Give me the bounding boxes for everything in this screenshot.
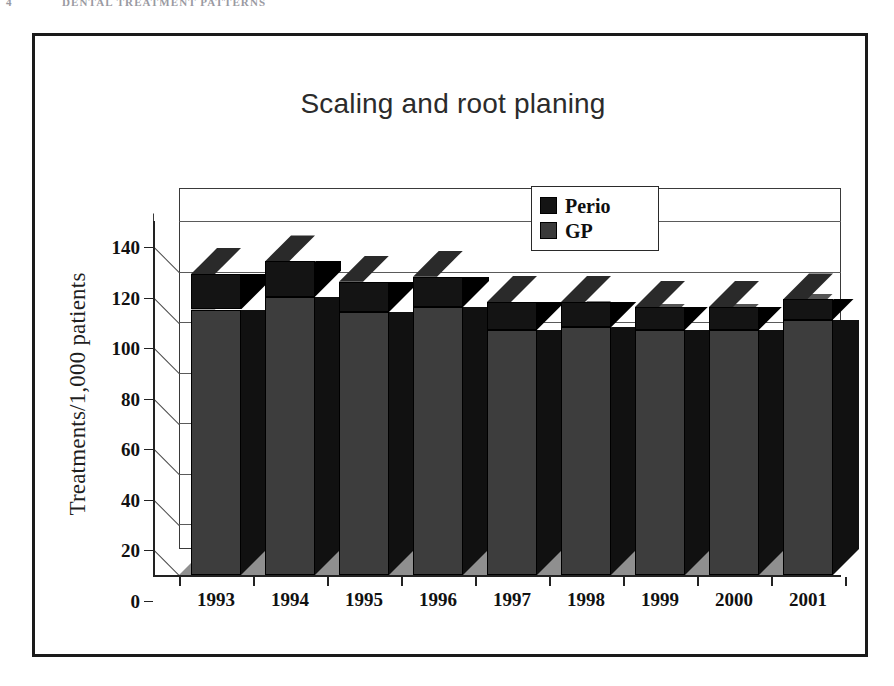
bar-group-2000[interactable] (709, 36, 785, 575)
y-tick-100 (144, 348, 153, 349)
y-tick-label-80: 80 (82, 390, 140, 409)
y-tick-label-140: 140 (82, 238, 140, 257)
bar-segment-gp-1997[interactable] (487, 330, 537, 575)
bar-side-face-gp-1997 (537, 330, 563, 575)
figure-frame: Scaling and root planing Treatments/1,00… (32, 33, 868, 657)
bar-group-1995[interactable] (339, 36, 415, 575)
bar-side-face-perio-2001 (833, 299, 859, 319)
bar-segment-gp-2000[interactable] (709, 330, 759, 575)
bar-group-1996[interactable] (413, 36, 489, 575)
bar-side-face-perio-2000 (759, 307, 785, 330)
bar-top-face-perio-1996 (413, 251, 463, 277)
bar-side-face-gp-1994 (315, 297, 341, 575)
legend-swatch-gp (540, 222, 557, 239)
bar-top-face-perio-1993 (191, 248, 241, 274)
bar-side-face-perio-1999 (685, 307, 711, 330)
bar-top-face-perio-1999 (635, 281, 685, 307)
bar-front-face-perio-1996 (413, 277, 463, 307)
bar-front-face-gp-2001 (783, 320, 833, 575)
x-tick-2000 (697, 577, 699, 586)
bar-side-face-perio-1996 (463, 277, 489, 307)
x-axis-label-2000: 2000 (697, 589, 771, 611)
legend-item-perio[interactable]: Perio (540, 193, 650, 218)
x-axis-label-1995: 1995 (327, 589, 401, 611)
bar-front-face-perio-1995 (339, 282, 389, 312)
y-tick-label-60: 60 (82, 440, 140, 459)
x-axis-label-1993: 1993 (179, 589, 253, 611)
bar-side-face-gp-1993 (241, 310, 267, 576)
bar-top-face-perio-1997 (487, 276, 537, 302)
bar-side-face-perio-1997 (537, 302, 563, 330)
legend-swatch-perio (540, 197, 557, 214)
bar-segment-perio-1999[interactable] (635, 307, 685, 330)
page-folio: 4 (6, 0, 12, 8)
x-axis-label-1999: 1999 (623, 589, 697, 611)
bar-side-face-gp-1995 (389, 312, 415, 575)
bar-front-face-perio-1999 (635, 307, 685, 330)
legend-label-perio: Perio (565, 196, 611, 216)
bar-segment-perio-1996[interactable] (413, 277, 463, 307)
bar-segment-perio-1997[interactable] (487, 302, 537, 330)
y-tick-80 (144, 399, 153, 400)
y-tick-label-120: 120 (82, 289, 140, 308)
bar-segment-gp-1994[interactable] (265, 297, 315, 575)
bar-group-1994[interactable] (265, 36, 341, 575)
bar-segment-gp-1996[interactable] (413, 307, 463, 575)
x-tick-2001 (771, 577, 773, 586)
bar-segment-gp-1993[interactable] (191, 310, 241, 576)
bar-top-face-perio-1998 (561, 276, 611, 302)
x-tick-1998 (549, 577, 551, 586)
bar-segment-perio-2001[interactable] (783, 299, 833, 319)
y-axis-line (153, 221, 155, 575)
bar-front-face-gp-1993 (191, 310, 241, 576)
y-tick-label-100: 100 (82, 339, 140, 358)
bar-front-face-gp-1999 (635, 330, 685, 575)
bar-segment-gp-1998[interactable] (561, 327, 611, 575)
bar-side-face-gp-1998 (611, 327, 637, 575)
x-tick-1999 (623, 577, 625, 586)
page-running-header: 4 DENTAL TREATMENT PATTERNS (0, 0, 894, 10)
bar-group-1993[interactable] (191, 36, 267, 575)
bar-segment-perio-1993[interactable] (191, 274, 241, 309)
y-tick-0 (144, 601, 153, 602)
bar-segment-gp-2001[interactable] (783, 320, 833, 575)
x-axis-line (153, 575, 841, 577)
bar-front-face-perio-1994 (265, 261, 315, 296)
bar-front-face-perio-2000 (709, 307, 759, 330)
y-tick-60 (144, 449, 153, 450)
x-axis-label-1994: 1994 (253, 589, 327, 611)
bar-side-face-perio-1993 (241, 274, 267, 309)
bar-segment-perio-1994[interactable] (265, 261, 315, 296)
y-tick-label-40: 40 (82, 491, 140, 510)
bar-segment-perio-2000[interactable] (709, 307, 759, 330)
bar-top-face-perio-2000 (709, 281, 759, 307)
bar-front-face-gp-2000 (709, 330, 759, 575)
y-tick-20 (144, 550, 153, 551)
bar-front-face-gp-1995 (339, 312, 389, 575)
x-axis-label-1996: 1996 (401, 589, 475, 611)
bar-side-face-gp-2001 (833, 320, 859, 575)
x-axis-label-1997: 1997 (475, 589, 549, 611)
bar-front-face-perio-1993 (191, 274, 241, 309)
x-tick-1995 (327, 577, 329, 586)
bar-segment-gp-1999[interactable] (635, 330, 685, 575)
bar-segment-perio-1995[interactable] (339, 282, 389, 312)
plot-area: 020406080100120140 199319941995199619971… (35, 36, 871, 660)
legend-label-gp: GP (565, 221, 593, 241)
bar-front-face-perio-1998 (561, 302, 611, 327)
bar-front-face-gp-1994 (265, 297, 315, 575)
bar-front-face-perio-2001 (783, 299, 833, 319)
bar-front-face-perio-1997 (487, 302, 537, 330)
bar-side-face-perio-1995 (389, 282, 415, 312)
plot-side-wall (153, 188, 179, 575)
bar-group-1998[interactable] (561, 36, 637, 575)
bar-segment-perio-1998[interactable] (561, 302, 611, 327)
bar-side-face-perio-1994 (315, 261, 341, 296)
bar-group-2001[interactable] (783, 36, 859, 575)
bar-group-1999[interactable] (635, 36, 711, 575)
legend-item-gp[interactable]: GP (540, 218, 650, 243)
y-tick-label-0: 0 (82, 592, 140, 611)
bar-segment-gp-1995[interactable] (339, 312, 389, 575)
bar-group-1997[interactable] (487, 36, 563, 575)
bar-side-face-gp-1996 (463, 307, 489, 575)
